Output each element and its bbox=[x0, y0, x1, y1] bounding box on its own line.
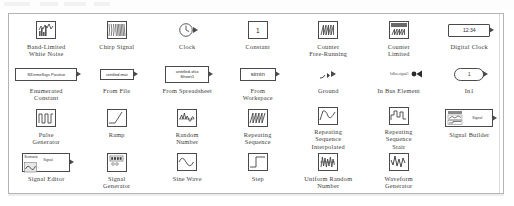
block-item-waveform-generator[interactable]: Waveform Generator bbox=[364, 150, 435, 194]
library-block-panel[interactable]: Band-Limited White Noise bbox=[8, 13, 504, 194]
waveform-icon bbox=[389, 151, 409, 173]
digital-readout-icon: 12:34 bbox=[448, 19, 490, 41]
block-item-from-spreadsheet[interactable]: untitled.xlsx Sheet1 From Spreadsheet bbox=[152, 62, 223, 106]
inport-number: 1 bbox=[468, 72, 471, 77]
random-noise-icon bbox=[177, 107, 197, 129]
spreadsheet-name: untitled.xlsx Sheet1 bbox=[176, 69, 199, 79]
block-label: Random Number bbox=[176, 131, 199, 146]
bus-element-icon: InBus.signal1 bbox=[375, 63, 423, 85]
toolbar-ghost-item bbox=[4, 2, 30, 6]
block-item-constant[interactable]: 1 Constant bbox=[223, 18, 294, 62]
block-label: Band-Limited White Noise bbox=[27, 43, 65, 58]
block-item-repeating-sequence-interpolated[interactable]: Repeating Sequence Interpolated bbox=[293, 106, 364, 150]
block-item-counter-free-running[interactable]: Counter Free-Running bbox=[293, 18, 364, 62]
noise-plot-icon bbox=[36, 19, 56, 41]
clock-face-icon bbox=[177, 19, 197, 41]
block-item-ramp[interactable]: Ramp bbox=[82, 106, 153, 150]
block-item-chirp-signal[interactable]: Chirp Signal bbox=[82, 18, 153, 62]
block-item-signal-editor[interactable]: Scenario Signal Signal Editor bbox=[11, 150, 82, 194]
block-item-pulse-generator[interactable]: Pulse Generator bbox=[11, 106, 82, 150]
toolbar-ghost-item bbox=[64, 2, 86, 6]
block-label: Signal Generator bbox=[103, 175, 130, 190]
block-item-signal-builder[interactable]: Signal Signal Builder bbox=[434, 106, 504, 150]
block-item-in1[interactable]: 1 In1 bbox=[434, 62, 504, 106]
block-item-repeating-sequence-stair[interactable]: Repeating Sequence Stair bbox=[364, 106, 435, 150]
block-label: From Spreadsheet bbox=[162, 87, 212, 94]
step-edge-icon bbox=[248, 151, 268, 173]
block-item-ground[interactable]: Ground bbox=[293, 62, 364, 106]
panel-scroll-edge[interactable] bbox=[499, 14, 503, 193]
signal-generator-icon bbox=[107, 151, 127, 173]
block-label: From File bbox=[103, 87, 130, 94]
value-box-icon: 1 bbox=[248, 19, 268, 41]
ground-symbol-icon bbox=[318, 63, 338, 85]
workspace-var: simin bbox=[251, 72, 265, 77]
panel-bottom-shadow bbox=[8, 194, 504, 196]
block-item-from-file[interactable]: untitled.mat From File bbox=[82, 62, 153, 106]
block-item-clock[interactable]: Clock bbox=[152, 18, 223, 62]
sawtooth-icon bbox=[248, 107, 268, 129]
block-label: Counter Free-Running bbox=[309, 43, 347, 58]
signal-builder-port-label: Signal bbox=[472, 116, 482, 120]
block-item-step[interactable]: Step bbox=[223, 150, 294, 194]
signal-builder-icon: Signal bbox=[445, 107, 493, 129]
enum-box-icon: SlDemoSign.Positive bbox=[15, 63, 77, 85]
inport-oval-icon: 1 bbox=[454, 63, 484, 85]
constant-value: 1 bbox=[256, 27, 260, 34]
block-label: Sine Wave bbox=[173, 175, 202, 182]
signal-editor-port-label: Signal bbox=[43, 158, 52, 162]
pulse-train-icon bbox=[36, 107, 56, 129]
block-item-counter-limited[interactable]: Counter Limited bbox=[364, 18, 435, 62]
block-label: In1 bbox=[465, 87, 474, 94]
block-item-enumerated-constant[interactable]: SlDemoSign.Positive Enumerated Constant bbox=[11, 62, 82, 106]
sine-wave-icon bbox=[177, 151, 197, 173]
block-label: Pulse Generator bbox=[33, 131, 60, 146]
signal-editor-icon: Scenario Signal bbox=[22, 151, 70, 173]
block-label: Step bbox=[252, 175, 264, 182]
block-item-digital-clock[interactable]: 12:34 Digital Clock bbox=[434, 18, 504, 62]
block-item-from-workspace[interactable]: simin From Workspace bbox=[223, 62, 294, 106]
ramp-slope-icon bbox=[107, 107, 127, 129]
block-item-sine-wave[interactable]: Sine Wave bbox=[152, 150, 223, 194]
toolbar-sliver bbox=[0, 0, 514, 10]
block-item-repeating-sequence[interactable]: Repeating Sequence bbox=[223, 106, 294, 150]
block-item-signal-generator[interactable]: Signal Generator bbox=[82, 150, 153, 194]
block-item-band-limited-white-noise[interactable]: Band-Limited White Noise bbox=[11, 18, 82, 62]
block-label: Clock bbox=[179, 43, 195, 50]
block-label: Counter Limited bbox=[388, 43, 410, 58]
block-label: Digital Clock bbox=[451, 43, 488, 50]
block-label: From Workspace bbox=[243, 87, 273, 102]
counter-wave-icon bbox=[318, 19, 338, 41]
mat-file-icon: untitled.mat bbox=[100, 63, 134, 85]
toolbar-ghost-item bbox=[40, 2, 58, 6]
uniform-random-icon bbox=[318, 151, 338, 173]
workspace-var-icon: simin bbox=[240, 63, 276, 85]
block-label: Signal Builder bbox=[449, 131, 489, 138]
block-grid: Band-Limited White Noise bbox=[9, 14, 503, 194]
signal-editor-scenario-label: Scenario bbox=[24, 155, 39, 159]
block-item-uniform-random-number[interactable]: Uniform Random Number bbox=[293, 150, 364, 194]
block-label: Ramp bbox=[109, 131, 125, 138]
block-cell-empty bbox=[434, 150, 504, 194]
chirp-wave-icon bbox=[107, 19, 127, 41]
block-label: Repeating Sequence bbox=[244, 131, 272, 146]
digital-clock-value: 12:34 bbox=[463, 28, 476, 33]
block-item-in-bus-element[interactable]: InBus.signal1 In Bus Element bbox=[364, 62, 435, 106]
file-name: untitled.mat bbox=[106, 72, 128, 77]
block-label: In Bus Element bbox=[377, 87, 420, 94]
block-label: Uniform Random Number bbox=[304, 175, 352, 190]
block-label: Repeating Sequence Interpolated bbox=[312, 128, 345, 150]
spreadsheet-icon: untitled.xlsx Sheet1 bbox=[165, 63, 209, 85]
block-label: Constant bbox=[246, 43, 270, 50]
toolbar-ghost-item bbox=[94, 2, 110, 6]
block-label: Ground bbox=[318, 87, 339, 94]
block-label: Waveform Generator bbox=[385, 175, 413, 190]
block-label: Chirp Signal bbox=[99, 43, 134, 50]
enum-value: SlDemoSign.Positive bbox=[27, 72, 65, 77]
block-label: Repeating Sequence Stair bbox=[385, 128, 413, 150]
interp-curve-icon bbox=[318, 107, 338, 126]
block-item-random-number[interactable]: Random Number bbox=[152, 106, 223, 150]
counter-limited-icon bbox=[389, 19, 409, 41]
stair-step-icon bbox=[389, 107, 409, 126]
block-label: Enumerated Constant bbox=[30, 87, 63, 102]
